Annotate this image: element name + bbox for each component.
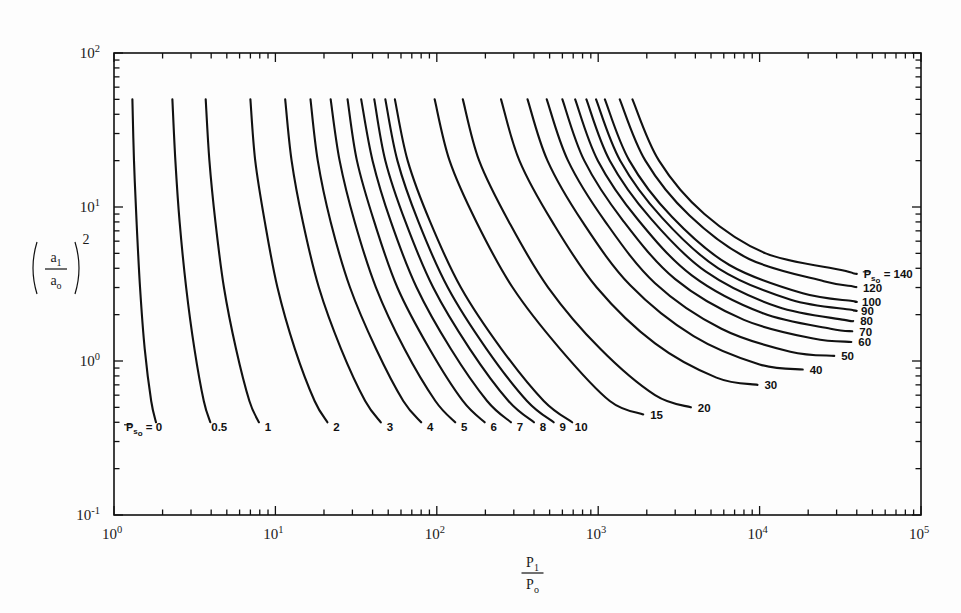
x-tick-label: 103 (586, 524, 606, 542)
curve-label-ps0-zero: Pso = 0 (126, 421, 162, 438)
x-tick-label: 104 (747, 524, 768, 542)
curve-label-100: 100 (862, 296, 881, 308)
curve-label-60: 60 (858, 336, 871, 348)
curve-1 (206, 99, 259, 422)
curve-6 (348, 99, 485, 422)
curve-label-9: 9 (559, 421, 565, 433)
y-axis-title-paren-right (75, 242, 79, 294)
curve-7 (361, 99, 511, 422)
curve-label-7: 7 (517, 421, 523, 433)
x-tick-label: 105 (909, 524, 929, 542)
curve-label-ps0-140: Pso = 140 (864, 268, 913, 285)
curve-140 (632, 99, 856, 274)
curve-label-4: 4 (427, 421, 434, 433)
curve-label-15: 15 (650, 409, 663, 421)
plot-frame (114, 53, 921, 515)
curve-0.5 (172, 99, 210, 422)
y-tick-label: 10-1 (76, 505, 100, 523)
curve-label-3: 3 (387, 421, 393, 433)
x-tick-label: 100 (102, 524, 122, 542)
curve-50 (547, 99, 834, 355)
y-axis-title-numerator: a1 (50, 250, 61, 268)
curve-9 (385, 99, 553, 422)
curve-label-20: 20 (698, 402, 711, 414)
curve-label-40: 40 (810, 364, 823, 376)
x-axis-title-denominator: Po (526, 577, 539, 595)
curve-label-5: 5 (461, 421, 468, 433)
curve-group (132, 99, 856, 422)
curve-label-30: 30 (764, 379, 777, 391)
curve-label-70: 70 (859, 326, 872, 338)
curve-8 (374, 99, 534, 422)
curve-15 (435, 99, 644, 414)
curve-label-10: 10 (575, 421, 588, 433)
curve-label-50: 50 (841, 350, 854, 362)
log-log-chart: 10010110210310410510-11001011020.5123456… (0, 0, 961, 613)
x-tick-label: 101 (263, 524, 283, 542)
curve-label-0.5: 0.5 (211, 421, 228, 433)
y-tick-label: 100 (80, 351, 100, 369)
x-axis-title-numerator: P1 (526, 555, 539, 573)
curve-label-8: 8 (540, 421, 547, 433)
y-tick-label: 102 (80, 43, 100, 61)
y-axis-title-paren-left (33, 242, 37, 294)
curve-0 (132, 99, 156, 422)
curve-80 (586, 99, 853, 321)
curve-label-1: 1 (265, 421, 272, 433)
curve-label-6: 6 (490, 421, 496, 433)
axes-frame (114, 53, 921, 515)
curve-label-2: 2 (333, 421, 339, 433)
x-tick-label: 102 (425, 524, 445, 542)
y-tick-label: 101 (80, 197, 100, 215)
y-axis-title-denominator: ao (50, 273, 61, 291)
y-axis-title-exponent: 2 (83, 232, 90, 247)
figure-container: 10010110210310410510-11001011020.5123456… (0, 0, 961, 613)
curve-5 (331, 99, 456, 422)
